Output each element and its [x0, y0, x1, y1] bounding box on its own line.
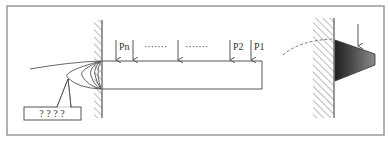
- load-label-p2: P2: [233, 41, 244, 52]
- beam: [102, 61, 262, 89]
- diagram-canvas: ? ? ? ? Pn P2 P1 ······· ·······: [0, 0, 388, 141]
- load-label-pn: Pn: [119, 41, 130, 52]
- callout-text: ? ? ? ?: [39, 108, 65, 119]
- ellipsis-1: ·······: [144, 41, 167, 52]
- load-label-p1: P1: [254, 41, 265, 52]
- callout: ? ? ? ?: [24, 79, 81, 120]
- ellipsis-2: ·······: [185, 41, 208, 52]
- load-arrows: [116, 40, 251, 60]
- right-wall: [313, 18, 334, 118]
- tapered-beam: [335, 40, 375, 81]
